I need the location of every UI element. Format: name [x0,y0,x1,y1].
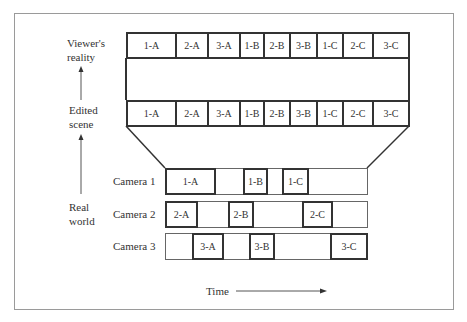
label-edited-scene: Edited scene [69,103,98,131]
viewer-shot: 2-B [263,32,291,59]
camera-shot: 3-A [192,233,224,260]
camera-shot: 2-A [165,201,198,228]
viewer-shot: 2-C [342,32,374,59]
edited-shot: 1-A [126,100,177,127]
camera-shot: 3-B [249,233,275,260]
edited-shot: 3-C [372,100,410,127]
viewer-shot: 1-B [239,32,265,59]
camera-shot: 1-B [243,168,268,195]
viewer-shot: 2-A [175,32,209,59]
edited-shot: 2-A [175,100,209,127]
label-line: reality [67,50,105,64]
label-line: Edited [69,103,98,117]
label-line: scene [69,117,98,131]
label-line: Viewer's [67,36,105,50]
camera-shot: 1-A [165,168,216,195]
time-label: Time [206,284,229,298]
edited-shot: 1-B [239,100,265,127]
edited-shot: 2-C [342,100,374,127]
label-real-world: Real world [69,200,95,228]
label-line: world [69,214,95,228]
camera-shot: 2-B [228,201,254,228]
camera-2-label: Camera 2 [113,207,155,221]
camera-shot: 1-C [282,168,309,195]
edited-shot: 2-B [263,100,291,127]
camera-shot: 3-C [330,233,368,260]
camera-3-label: Camera 3 [113,239,155,253]
edited-shot: 3-A [207,100,241,127]
edited-shot: 1-C [316,100,344,127]
label-line: Real [69,200,95,214]
viewer-shot: 1-A [126,32,177,59]
viewer-shot: 3-A [207,32,241,59]
viewer-shot: 3-C [372,32,410,59]
viewer-shot: 1-C [316,32,344,59]
edited-shot: 3-B [289,100,318,127]
viewer-shot: 3-B [289,32,318,59]
camera-1-label: Camera 1 [113,174,155,188]
label-viewers-reality: Viewer's reality [67,36,105,64]
camera-shot: 2-C [302,201,333,228]
